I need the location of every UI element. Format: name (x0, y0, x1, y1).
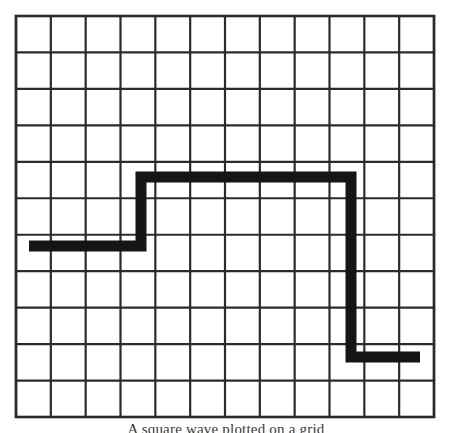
figure-page: A square wave plotted on a grid (0, 0, 452, 433)
waveform-figure (0, 0, 452, 433)
figure-caption: A square wave plotted on a grid (0, 421, 452, 433)
